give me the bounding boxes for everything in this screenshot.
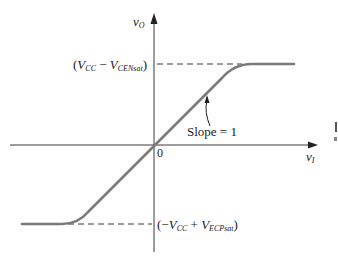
upper-saturation-label: (VCC − VCENsat)	[73, 57, 147, 73]
x-axis-label: vI	[306, 149, 315, 165]
origin-label: 0	[157, 146, 163, 160]
x-axis-arrow-icon	[308, 142, 318, 149]
edge-artifact	[334, 137, 337, 141]
x-axis	[10, 142, 318, 149]
transfer-characteristic-diagram: vO vI 0 (VCC − VCENsat) (−VCC + VECPsat)…	[0, 0, 338, 267]
slope-label: Slope = 1	[187, 124, 237, 139]
edge-artifact	[335, 122, 337, 132]
slope-pointer-arrow	[206, 100, 210, 126]
lower-saturation-label: (−VCC + VECPsat)	[157, 217, 238, 233]
y-axis-arrow-icon	[151, 13, 158, 24]
transfer-curve	[22, 64, 294, 224]
y-axis-label: vO	[133, 14, 145, 30]
